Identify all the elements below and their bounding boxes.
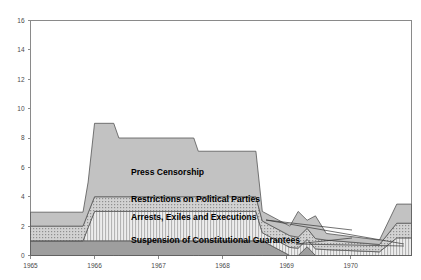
chart-container: 0246810121416 196519661967196819691970 P… — [0, 0, 421, 280]
x-tick-label: 1968 — [215, 262, 230, 269]
x-tick-label: 1969 — [279, 262, 294, 269]
x-axis-ticks: 196519661967196819691970 — [23, 256, 358, 269]
stacked-area-chart: 0246810121416 196519661967196819691970 P… — [0, 0, 421, 280]
y-tick-label: 10 — [17, 105, 25, 112]
y-tick-label: 8 — [21, 134, 25, 141]
x-tick-label: 1965 — [23, 262, 38, 269]
annotation-press-censorship: Press Censorship — [131, 167, 204, 177]
x-tick-label: 1967 — [151, 262, 166, 269]
annotation-restrictions-on-political-parties: Restrictions on Political Parties — [131, 194, 260, 204]
annotation-arrests-exiles-and-executions: Arrests, Exiles and Executions — [131, 212, 257, 222]
y-axis-ticks: 0246810121416 — [17, 17, 30, 259]
y-tick-label: 0 — [21, 252, 25, 259]
annotation-suspension-of-constitutional-guarantees: Suspension of Constitutional Guarantees — [131, 235, 300, 245]
y-tick-label: 2 — [21, 223, 25, 230]
x-tick-label: 1966 — [87, 262, 102, 269]
y-tick-label: 12 — [17, 76, 25, 83]
y-tick-label: 16 — [17, 17, 25, 24]
y-tick-label: 6 — [21, 164, 25, 171]
x-tick-label: 1970 — [343, 262, 358, 269]
y-tick-label: 14 — [17, 46, 25, 53]
y-tick-label: 4 — [21, 193, 25, 200]
